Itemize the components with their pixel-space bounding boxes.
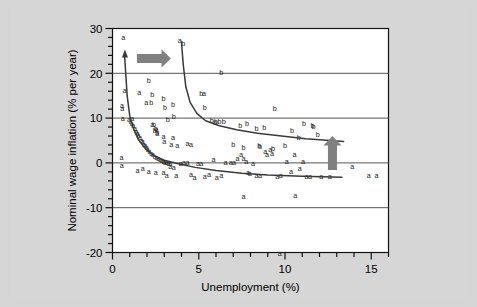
x-tick-label: 15 [365,263,378,275]
data-point-a: a [258,171,262,180]
data-point-b: b [273,104,277,113]
data-point-a: a [374,171,378,180]
data-point-b: b [271,144,275,153]
data-point-b: b [149,98,153,107]
data-point-a: a [367,171,371,180]
figure-container: aaaaaaaaaaaaaaaaaaaaaaaaaaaaaaaaaaaaaaaa… [0,0,477,307]
data-point-b: b [302,119,306,128]
x-tick-label: 10 [279,263,292,275]
x-tick-label: 5 [196,263,202,275]
data-point-a: a [211,155,215,164]
data-point-b: b [163,103,167,112]
data-point-b: b [262,123,266,132]
data-point-a: a [165,171,169,180]
data-point-a: a [121,33,125,42]
data-point-a: a [293,191,297,200]
data-point-b: b [199,89,203,98]
data-point-a: a [136,166,140,175]
data-point-b: b [172,112,176,121]
data-point-b: b [171,100,175,109]
y-tick-label: 30 [90,23,103,35]
data-point-b: b [290,126,294,135]
data-point-b: b [258,142,262,151]
data-point-a: a [207,170,211,179]
data-point-a: a [278,249,282,258]
data-point-a: a [223,158,227,167]
y-tick-label: 10 [90,112,103,124]
data-point-a: a [120,104,124,113]
y-tick-label: 0 [96,157,102,169]
data-point-b: b [238,121,242,130]
data-point-b: b [316,130,320,139]
data-point-a: a [285,157,289,166]
data-point-a: a [242,192,246,201]
data-point-a: a [189,140,193,149]
data-point-a: a [219,171,223,180]
data-point-b: b [161,94,165,103]
data-point-a: a [144,98,148,107]
data-point-b: b [242,143,246,152]
data-point-b: b [219,68,223,77]
data-point-b: b [166,115,170,124]
data-point-a: a [137,88,141,97]
data-point-b: b [231,140,235,149]
data-point-b: b [147,76,151,85]
data-point-b: b [222,117,226,126]
data-point-a: a [120,161,124,170]
data-point-b: b [245,119,249,128]
data-point-a: a [350,162,354,171]
data-point-a: a [199,159,203,168]
data-point-a: a [292,150,296,159]
data-point-a: a [192,173,196,182]
x-tick-label: 0 [109,263,115,275]
y-tick-label: -20 [86,247,103,259]
data-point-a: a [121,114,125,123]
data-point-a: a [147,167,151,176]
data-point-a: a [141,164,145,173]
data-point-a: a [162,137,166,146]
data-point-a: a [251,159,255,168]
data-point-b: b [203,103,207,112]
phillips-curve-chart: aaaaaaaaaaaaaaaaaaaaaaaaaaaaaaaaaaaaaaaa… [0,0,477,307]
data-point-a: a [169,140,173,149]
data-point-a: a [301,157,305,166]
y-tick-label: -10 [86,202,103,214]
y-axis-title: Nominal wage inflation (% per year) [66,49,78,231]
data-point-a: a [174,171,178,180]
y-tick-label: 20 [90,68,103,80]
data-point-a: a [244,157,248,166]
data-point-b: b [255,124,259,133]
x-axis-title: Unemployment (%) [201,281,300,293]
data-point-b: b [153,126,157,135]
data-point-a: a [154,168,158,177]
data-point-b: b [283,141,287,150]
data-point-a: a [175,141,179,150]
